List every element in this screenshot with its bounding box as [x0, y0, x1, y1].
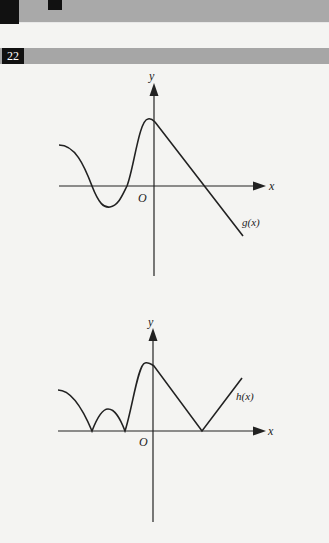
- g-label: g(x): [242, 216, 260, 229]
- h-label: h(x): [236, 390, 254, 403]
- x-label: x: [267, 424, 274, 438]
- y-label: y: [148, 69, 155, 83]
- graphs: y x O g(x) y x O h(x): [0, 0, 329, 543]
- y-axis-arrow-icon: [150, 83, 159, 96]
- graph-g: y x O g(x): [59, 69, 275, 276]
- x-label: x: [268, 179, 275, 193]
- y-label: y: [147, 315, 154, 329]
- graph-h: y x O h(x): [58, 315, 274, 522]
- x-axis-arrow-icon: [253, 427, 266, 436]
- origin-label: O: [139, 435, 148, 449]
- h-curve: [58, 363, 242, 431]
- y-axis-arrow-icon: [149, 328, 158, 341]
- x-axis-arrow-icon: [253, 182, 266, 191]
- origin-label: O: [138, 191, 147, 205]
- g-curve: [59, 119, 243, 236]
